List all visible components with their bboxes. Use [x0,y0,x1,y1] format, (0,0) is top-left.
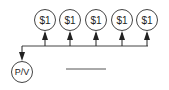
present-value-label: P/V [15,67,30,77]
payment-4: $1 [112,10,133,47]
payment-5: $1 [137,10,158,47]
payment-label: $1 [116,15,128,26]
payment-label: $1 [141,15,153,26]
payment-3: $1 [86,10,107,47]
annuity-timeline-diagram: $1 $1 $1 $1 $1 P/V [0,0,169,90]
payment-1: $1 [35,10,56,47]
payment-label: $1 [64,15,76,26]
payment-label: $1 [90,15,102,26]
payment-2: $1 [60,10,81,47]
present-value: P/V [12,46,33,83]
payment-label: $1 [39,15,51,26]
